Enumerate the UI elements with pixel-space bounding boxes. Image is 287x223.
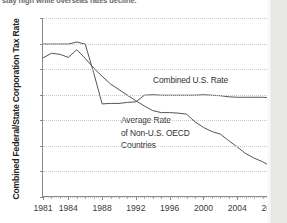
- x-tick-mark: [170, 197, 171, 200]
- x-tick-minor: [153, 197, 154, 199]
- y-gridline: [43, 44, 271, 45]
- x-tick-label: 1981: [33, 203, 52, 213]
- x-tick-mark: [237, 197, 238, 200]
- x-tick-label: 2004: [228, 203, 247, 213]
- x-tick-minor: [77, 197, 78, 199]
- x-tick-mark: [43, 197, 44, 200]
- x-tick-minor: [60, 197, 61, 199]
- x-tick-mark: [136, 197, 137, 200]
- series-lines: [43, 18, 271, 197]
- x-tick-label: 1988: [93, 203, 112, 213]
- x-tick-minor: [51, 197, 52, 199]
- plot-area: Combined U.S. Rate Average Rate of Non-U…: [42, 18, 270, 197]
- y-gridline: [43, 18, 271, 19]
- y-tick-mark: [40, 95, 43, 96]
- x-tick-minor: [94, 197, 95, 199]
- x-tick-label: 1992: [126, 203, 145, 213]
- y-tick-mark: [40, 18, 43, 19]
- y-gridline: [43, 120, 271, 121]
- x-tick-label: 2000: [194, 203, 213, 213]
- x-tick-label: 1984: [59, 203, 78, 213]
- x-tick-minor: [127, 197, 128, 199]
- x-tick-mark: [203, 197, 204, 200]
- x-tick-mark: [68, 197, 69, 200]
- y-tick-mark: [40, 146, 43, 147]
- annotation-us-line1: Combined U.S. Rate: [153, 75, 228, 85]
- chart-figure: stay high while overseas rates decline. …: [0, 0, 287, 223]
- y-gridline: [43, 95, 271, 96]
- y-gridline: [43, 69, 271, 70]
- x-tick-minor: [161, 197, 162, 199]
- annotation-oecd-line2: of Non-U.S. OECD: [121, 127, 190, 140]
- y-tick-mark: [40, 44, 43, 45]
- y-axis-title: Combined Federal/State Corporation Tax R…: [11, 16, 21, 202]
- clipped-caption-text: stay high while overseas rates decline.: [2, 0, 232, 6]
- x-tick-minor: [187, 197, 188, 199]
- x-tick-minor: [195, 197, 196, 199]
- y-tick-mark: [40, 171, 43, 172]
- x-tick-minor: [254, 197, 255, 199]
- x-tick-minor: [144, 197, 145, 199]
- x-tick-minor: [220, 197, 221, 199]
- y-gridline: [43, 146, 271, 147]
- x-tick-minor: [178, 197, 179, 199]
- y-tick-mark: [40, 69, 43, 70]
- x-tick-minor: [212, 197, 213, 199]
- y-tick-mark: [40, 120, 43, 121]
- x-tick-minor: [263, 197, 264, 199]
- y-gridline: [43, 171, 271, 172]
- x-tick-mark: [102, 197, 103, 200]
- x-tick-minor: [111, 197, 112, 199]
- x-tick-minor: [119, 197, 120, 199]
- annotation-combined-us-rate: Combined U.S. Rate: [153, 75, 228, 85]
- x-tick-minor: [85, 197, 86, 199]
- page-gutter: [271, 0, 287, 223]
- x-tick-minor: [229, 197, 230, 199]
- x-tick-minor: [246, 197, 247, 199]
- x-tick-label: 1996: [160, 203, 179, 213]
